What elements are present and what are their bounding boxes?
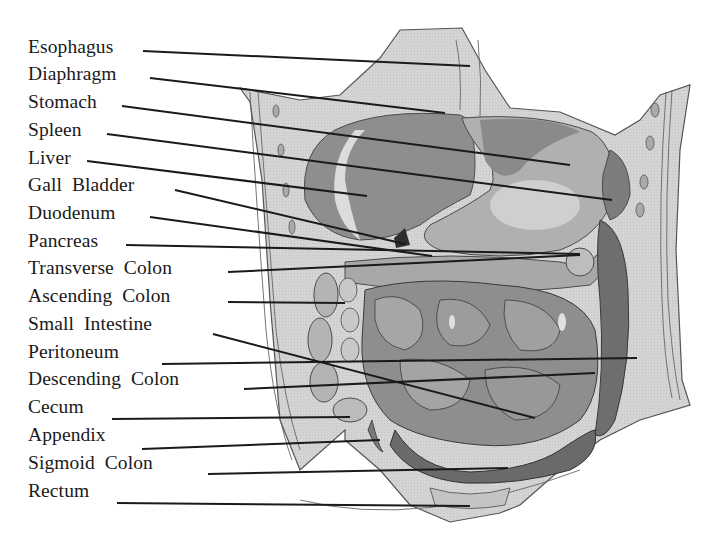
label-duodenum: Duodenum	[28, 203, 115, 223]
label-spleen: Spleen	[28, 120, 82, 140]
label-peritoneum: Peritoneum	[28, 342, 119, 362]
label-appendix: Appendix	[28, 425, 106, 445]
small-intestine	[362, 281, 598, 446]
label-pancreas: Pancreas	[28, 231, 98, 251]
label-small-intestine: Small Intestine	[28, 314, 152, 334]
label-diaphragm: Diaphragm	[28, 64, 117, 84]
label-cecum: Cecum	[28, 397, 84, 417]
label-stomach: Stomach	[28, 92, 97, 112]
label-esophagus: Esophagus	[28, 37, 113, 57]
label-transverse-colon: Transverse Colon	[28, 258, 172, 278]
label-gall-bladder: Gall Bladder	[28, 175, 134, 195]
label-descending-colon: Descending Colon	[28, 369, 179, 389]
label-rectum: Rectum	[28, 481, 89, 501]
anatomy-diagram: Esophagus Diaphragm Stomach Spleen Liver…	[0, 0, 720, 543]
leader-line-appendix	[142, 440, 380, 449]
cecum	[333, 398, 367, 422]
label-sigmoid-colon: Sigmoid Colon	[28, 453, 153, 473]
label-liver: Liver	[28, 148, 71, 168]
label-ascending-colon: Ascending Colon	[28, 286, 170, 306]
leader-line-ascending-colon	[228, 302, 345, 303]
